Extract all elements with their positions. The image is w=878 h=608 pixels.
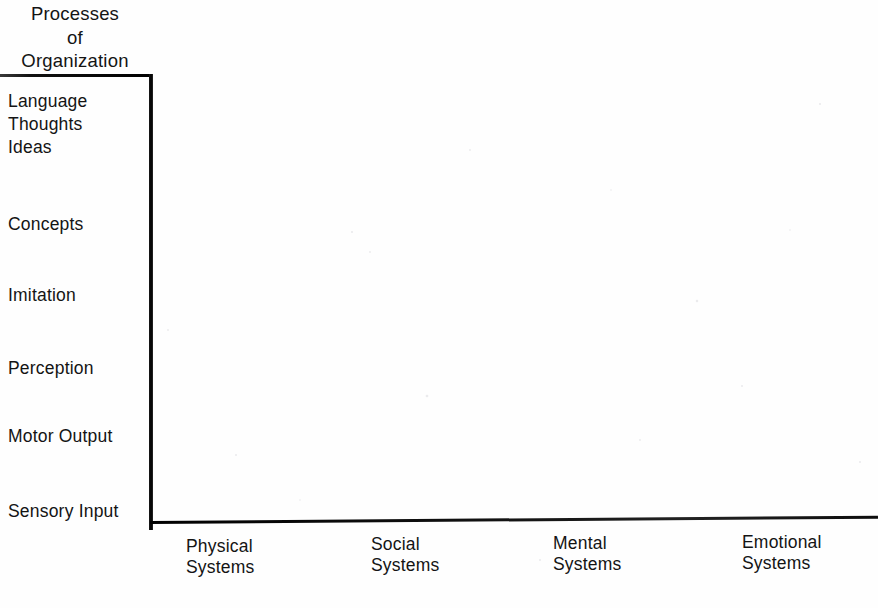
y-axis-label-line: Sensory Input <box>8 500 119 523</box>
y-axis-label-line: Ideas <box>8 136 87 159</box>
figure-canvas: Processes of Organization Language Thoug… <box>0 0 878 608</box>
x-axis-label-line: Systems <box>742 553 822 574</box>
y-axis-label-motor-output: Motor Output <box>8 425 113 448</box>
y-axis-title: Processes of Organization <box>0 2 150 73</box>
y-axis-label-line: Thoughts <box>8 113 87 136</box>
y-axis-title-line-3: Organization <box>0 49 150 73</box>
y-axis-top-cap-line <box>0 74 152 77</box>
y-axis-title-line-1: Processes <box>0 2 150 26</box>
y-axis-label-line: Language <box>8 90 87 113</box>
x-axis-label-physical-systems: Physical Systems <box>186 536 255 578</box>
x-axis-label-line: Social <box>371 534 440 555</box>
y-axis-label-line: Perception <box>8 357 94 380</box>
x-axis-label-line: Mental <box>553 533 622 554</box>
y-axis-label-concepts: Concepts <box>8 213 84 236</box>
x-axis-label-mental-systems: Mental Systems <box>553 533 622 575</box>
y-axis-label-perception: Perception <box>8 357 94 380</box>
y-axis-label-language-thoughts-ideas: Language Thoughts Ideas <box>8 90 87 159</box>
x-axis-label-social-systems: Social Systems <box>371 534 440 576</box>
x-axis-label-line: Physical <box>186 536 255 557</box>
y-axis-label-imitation: Imitation <box>8 284 76 307</box>
y-axis-label-line: Motor Output <box>8 425 113 448</box>
y-axis-line <box>149 74 153 530</box>
y-axis-label-line: Imitation <box>8 284 76 307</box>
x-axis-label-emotional-systems: Emotional Systems <box>742 532 822 574</box>
y-axis-label-sensory-input: Sensory Input <box>8 500 119 523</box>
x-axis-label-line: Systems <box>186 557 255 578</box>
y-axis-label-line: Concepts <box>8 213 84 236</box>
x-axis-line <box>150 516 878 525</box>
x-axis-label-line: Emotional <box>742 532 822 553</box>
x-axis-label-line: Systems <box>371 555 440 576</box>
y-axis-title-line-2: of <box>0 26 150 50</box>
x-axis-label-line: Systems <box>553 554 622 575</box>
